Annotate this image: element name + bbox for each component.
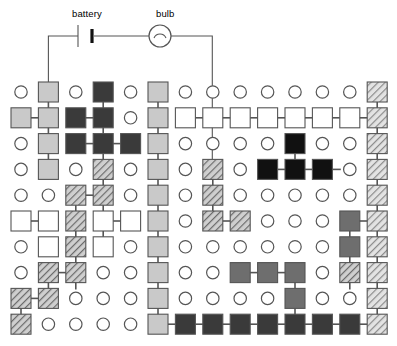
lattice-site-empty [70,292,82,304]
lattice-site-occupied [38,211,58,231]
lattice-site-empty [261,215,273,227]
lattice-site-empty [42,318,54,330]
lattice-site-empty [316,215,328,227]
lattice-site-empty [344,163,356,175]
lattice-site-empty [179,189,191,201]
lattice-site-empty [316,137,328,149]
lattice-site-occupied [148,185,168,205]
lattice-site-empty [234,292,246,304]
lattice-site-occupied [367,263,387,283]
lattice-site-empty [316,292,328,304]
lattice-site-empty [316,189,328,201]
lattice-site-occupied [312,159,332,179]
lattice-site-occupied [148,159,168,179]
lattice-site-occupied [38,108,58,128]
lattice-site-occupied [66,237,86,257]
lattice-site-occupied [66,108,86,128]
lattice-site-empty [15,137,27,149]
lattice-site-occupied [312,108,332,128]
lattice-site-empty [261,292,273,304]
lattice-site-occupied [258,108,278,128]
lattice-site-empty [97,318,109,330]
lattice-site-occupied [367,108,387,128]
lattice-site-occupied [203,314,223,334]
lattice-site-empty [97,266,109,278]
lattice-site-empty [344,292,356,304]
lattice-circuit-figure: battery bulb [0,0,397,346]
lattice-site-empty [179,215,191,227]
lattice-site-occupied [203,108,223,128]
lattice-site-empty [316,241,328,253]
lattice-site-occupied [258,263,278,283]
lattice-site-empty [124,189,136,201]
lattice-site-empty [261,189,273,201]
lattice-site-occupied [93,211,113,231]
lattice-site-empty [207,137,219,149]
lattice-site-empty [261,137,273,149]
lattice-site-occupied [367,211,387,231]
lattice-site-empty [124,163,136,175]
lattice-site-empty [234,137,246,149]
lattice-site-occupied [93,134,113,154]
lattice-site-occupied [367,159,387,179]
lattice-site-occupied [38,237,58,257]
lattice-site-empty [124,292,136,304]
lattice-site-occupied [11,314,31,334]
lattice-site-empty [179,292,191,304]
lattice-site-occupied [340,263,360,283]
lattice-site-empty [15,241,27,253]
lattice-site-occupied [230,108,250,128]
lattice-site-empty [15,189,27,201]
lattice-site-empty [289,215,301,227]
lattice-site-empty [124,86,136,98]
lattice-site-empty [15,266,27,278]
lattice-site-occupied [312,314,332,334]
lattice-site-occupied [175,314,195,334]
lattice-site-empty [234,86,246,98]
lattice-site-occupied [11,108,31,128]
lattice-site-empty [70,86,82,98]
lattice-site-occupied [66,263,86,283]
lattice-site-occupied [121,134,141,154]
lattice-site-occupied [285,288,305,308]
figure-canvas [0,0,397,346]
lattice-site-occupied [230,263,250,283]
lattice-site-occupied [148,108,168,128]
lattice-site-empty [316,86,328,98]
lattice-site-occupied [340,237,360,257]
lattice-site-occupied [367,288,387,308]
lattice-site-occupied [93,82,113,102]
lattice-site-empty [70,318,82,330]
lattice-site-empty [207,266,219,278]
lattice-site-empty [42,189,54,201]
lattice-site-empty [179,137,191,149]
lattice-site-empty [179,86,191,98]
lattice-site-occupied [285,134,305,154]
lattice-site-occupied [38,134,58,154]
lattice-site-occupied [93,237,113,257]
lattice-site-occupied [258,314,278,334]
lattice-site-occupied [203,159,223,179]
lattice-site-empty [289,241,301,253]
lattice-site-occupied [230,211,250,231]
lattice-site-empty [124,266,136,278]
lattice-site-occupied [340,211,360,231]
lattice-site-occupied [38,263,58,283]
lattice-site-occupied [367,82,387,102]
lattice-site-occupied [367,237,387,257]
lattice-site-empty [179,241,191,253]
lattice-site-occupied [121,211,141,231]
lattice-site-empty [261,241,273,253]
lattice-site-empty [124,318,136,330]
lattice-site-empty [179,266,191,278]
lattice-site-occupied [175,108,195,128]
lattice-site-empty [289,86,301,98]
lattice-site-occupied [148,263,168,283]
lattice-site-empty [234,241,246,253]
lattice-site-occupied [148,211,168,231]
lattice-site-occupied [203,185,223,205]
lattice-site-occupied [367,185,387,205]
lattice-site-occupied [93,108,113,128]
lattice-site-occupied [148,288,168,308]
lattice-site-empty [15,163,27,175]
